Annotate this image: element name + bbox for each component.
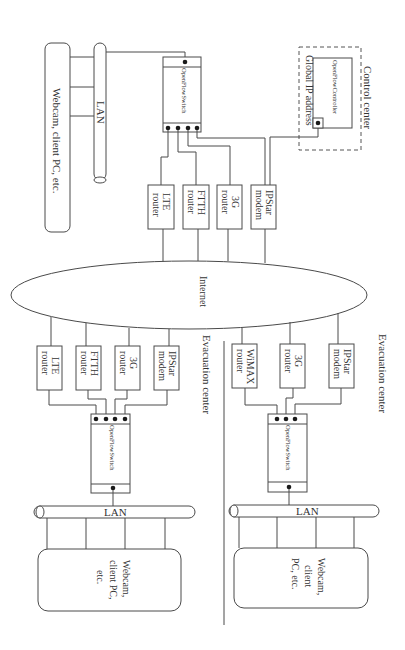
controller-label: OpenFlowController [332, 60, 339, 115]
main-lan-label: LAN [95, 101, 107, 124]
evac1-switch-label: OpenFlowSwitch [109, 425, 116, 471]
svg-text:router: router [220, 190, 231, 215]
evac2-label: Evacuation center [377, 334, 389, 413]
svg-text:router: router [186, 190, 197, 215]
svg-text:Webcam,: Webcam, [316, 558, 327, 595]
main-site: Webcam, client PC, etc. LAN OpenFlowSwit… [45, 43, 276, 263]
svg-text:router: router [151, 193, 162, 218]
svg-text:modem: modem [157, 351, 168, 381]
network-diagram: Webcam, client PC, etc. LAN OpenFlowSwit… [0, 0, 405, 650]
global-ip-label: Global IP address [304, 55, 315, 126]
evacuation-center-2: Evacuation center WiMAX router 3G router… [229, 313, 389, 608]
evac2-lan-label: LAN [296, 505, 319, 517]
svg-text:router: router [283, 349, 294, 374]
internet-label: Internet [198, 276, 209, 307]
control-center: Control center OpenFlowController Global… [270, 47, 374, 185]
svg-text:router: router [40, 351, 51, 376]
svg-text:router: router [79, 351, 90, 376]
svg-text:client: client [303, 565, 314, 587]
svg-text:PC, etc.: PC, etc. [290, 558, 301, 589]
evac1-lan-label: LAN [104, 506, 127, 518]
main-lan-end [94, 177, 106, 183]
evac2-switch-label: OpenFlowSwitch [285, 425, 292, 471]
main-hosts-label: Webcam, client PC, etc. [51, 88, 63, 194]
svg-text:etc.: etc. [95, 570, 106, 584]
internet-ellipse [11, 261, 367, 329]
svg-text:client PC,: client PC, [108, 560, 119, 599]
evac1-label: Evacuation center [201, 335, 213, 414]
internet: Internet [11, 261, 367, 329]
svg-text:modem: modem [254, 190, 265, 220]
svg-text:router: router [118, 351, 129, 376]
svg-text:modem: modem [332, 349, 343, 379]
svg-text:router: router [235, 349, 246, 374]
control-center-label: Control center [362, 66, 374, 130]
svg-text:Webcam,: Webcam, [121, 560, 132, 597]
evacuation-center-1: Evacuation center LTE router FTTH router… [34, 317, 213, 611]
main-switch-label: OpenFlowSwitch [181, 68, 188, 114]
